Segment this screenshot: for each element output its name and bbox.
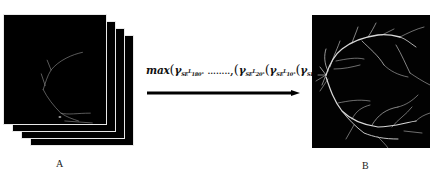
result-vessel-image <box>312 15 430 148</box>
max-operator: max <box>146 64 170 76</box>
right-arrow-icon <box>147 90 300 96</box>
panel-label-a: A <box>56 158 63 169</box>
ellipsis: ........ <box>207 64 230 76</box>
faint-vessel-image <box>4 15 106 124</box>
angle-180: 180° <box>192 71 204 77</box>
image-stack-sheet-1-front <box>3 14 107 125</box>
panel-label-b: B <box>362 160 369 171</box>
retinal-vessel-map <box>312 15 430 148</box>
angle-20: 20° <box>256 71 265 77</box>
